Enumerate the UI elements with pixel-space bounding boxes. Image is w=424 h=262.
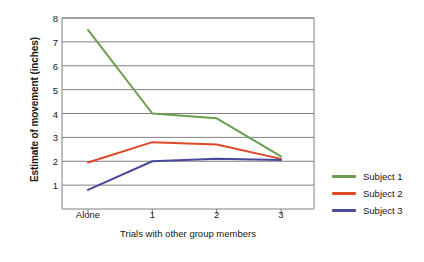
legend-swatch-icon — [332, 209, 356, 212]
line-chart-figure: Estimate of movement (inches) 12345678 A… — [0, 0, 424, 262]
x-axis-title: Trials with other group members — [62, 228, 314, 239]
legend-item-3: Subject 3 — [332, 202, 403, 219]
x-tick-label: 1 — [150, 209, 155, 220]
legend-label: Subject 3 — [363, 205, 403, 216]
legend-item-1: Subject 1 — [332, 168, 403, 185]
legend-swatch-icon — [332, 192, 356, 195]
legend-swatch-icon — [332, 175, 356, 178]
chart-legend: Subject 1Subject 2Subject 3 — [332, 168, 403, 219]
plot-area — [0, 0, 424, 262]
legend-item-2: Subject 2 — [332, 185, 403, 202]
x-tick-label: 2 — [214, 209, 219, 220]
x-tick-label: 3 — [278, 209, 283, 220]
x-tick-label: Alone — [76, 209, 100, 220]
legend-label: Subject 2 — [363, 188, 403, 199]
legend-label: Subject 1 — [363, 171, 403, 182]
